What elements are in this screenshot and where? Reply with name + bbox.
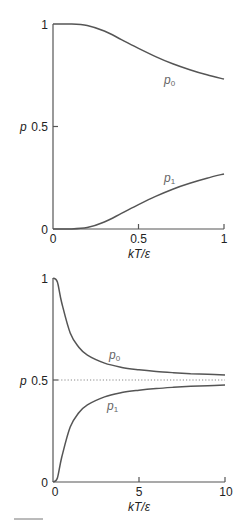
- chart-top: 1 0.5 0 p 0 0.5 1 kT/ε p0 p1: [19, 18, 228, 261]
- y-axis-label: p: [19, 374, 27, 388]
- x-tick-label-0: 0: [50, 232, 57, 246]
- label-p1: p1: [106, 399, 119, 414]
- x-axis-label: kT/ε: [128, 247, 151, 261]
- x-tick-label-0: 0: [52, 485, 59, 499]
- y-tick-label-0.5: 0.5: [31, 120, 48, 134]
- curve-p1: [53, 174, 224, 229]
- x-tick-label-10: 10: [219, 485, 233, 499]
- label-p0: p0: [163, 73, 176, 88]
- label-p1: p1: [163, 171, 176, 186]
- curve-p1: [53, 385, 225, 482]
- x-tick-label-5: 5: [136, 485, 143, 499]
- y-tick-label-0: 0: [41, 476, 48, 490]
- y-tick-label-0.5: 0.5: [31, 374, 48, 388]
- y-tick-label-0: 0: [41, 223, 48, 237]
- figure: 1 0.5 0 p 0 0.5 1 kT/ε p0 p1 1 0.5 0 p 0…: [0, 0, 247, 521]
- x-axis-label: kT/ε: [128, 500, 151, 514]
- curve-p0: [53, 278, 225, 375]
- x-tick-label-1: 1: [221, 232, 228, 246]
- y-tick-label-1: 1: [41, 272, 48, 286]
- curve-p0: [53, 24, 224, 79]
- y-axis-label: p: [19, 120, 27, 134]
- chart-bottom: 1 0.5 0 p 0 5 10 kT/ε p0 p1: [19, 272, 233, 514]
- y-tick-label-1: 1: [41, 18, 48, 32]
- label-p0: p0: [108, 348, 121, 363]
- x-tick-label-0.5: 0.5: [130, 232, 147, 246]
